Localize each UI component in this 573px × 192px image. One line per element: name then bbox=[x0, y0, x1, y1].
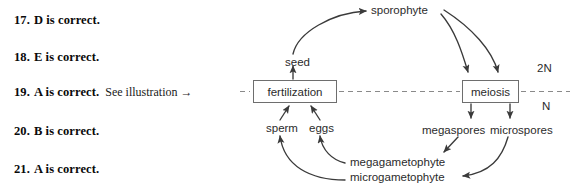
answer-key-page: 17.D is correct. 18.E is correct. 19.A i… bbox=[0, 0, 573, 192]
label-sperm: sperm bbox=[266, 123, 298, 135]
arrow-sperm-to-fertilization bbox=[280, 106, 289, 120]
answer-item-18: 18.E is correct. bbox=[14, 50, 99, 65]
answer-item-20: 20.B is correct. bbox=[14, 124, 99, 139]
node-fertilization-label: fertilization bbox=[268, 86, 323, 98]
node-meiosis-label: meiosis bbox=[471, 86, 510, 98]
life-cycle-diagram: fertilization meiosis sporophyte seed sp… bbox=[240, 0, 573, 192]
label-eggs: eggs bbox=[309, 123, 334, 135]
arrow-microgametophyte-to-sperm bbox=[280, 136, 345, 180]
arrow-megagametophyte-to-eggs bbox=[320, 136, 345, 163]
arrow-seed-to-sporophyte bbox=[293, 11, 366, 54]
answer-number: 17. bbox=[14, 13, 30, 27]
answer-item-21: 21.A is correct. bbox=[14, 162, 99, 177]
label-ploidy-diploid: 2N bbox=[537, 63, 552, 75]
answer-number: 21. bbox=[14, 162, 30, 176]
arrow-microspores-to-microgametophyte bbox=[463, 137, 508, 176]
arrow-megaspores-to-megagametophyte bbox=[444, 137, 458, 152]
label-seed: seed bbox=[285, 57, 310, 69]
answer-text: E is correct. bbox=[34, 50, 99, 64]
node-meiosis: meiosis bbox=[462, 80, 519, 103]
answer-number: 18. bbox=[14, 50, 30, 64]
arrow-sporophyte-to-meiosis-outer bbox=[444, 10, 498, 72]
arrow-sporophyte-to-meiosis bbox=[441, 14, 468, 72]
node-fertilization: fertilization bbox=[253, 80, 337, 103]
answer-text: B is correct. bbox=[34, 124, 99, 138]
answer-text: A is correct. bbox=[34, 85, 99, 99]
answer-number: 19. bbox=[14, 85, 30, 99]
arrow-eggs-to-fertilization bbox=[311, 106, 320, 120]
label-microspores: microspores bbox=[490, 125, 553, 137]
label-megagametophyte: megagametophyte bbox=[350, 157, 445, 169]
label-microgametophyte: microgametophyte bbox=[350, 172, 445, 184]
answer-item-19: 19.A is correct.See illustration → bbox=[14, 85, 193, 100]
label-megaspores: megaspores bbox=[422, 125, 485, 137]
answer-text: A is correct. bbox=[34, 162, 99, 176]
label-ploidy-haploid: N bbox=[542, 101, 550, 113]
answer-text: D is correct. bbox=[34, 13, 100, 27]
answer-list: 17.D is correct. 18.E is correct. 19.A i… bbox=[0, 0, 248, 192]
answer-number: 20. bbox=[14, 124, 30, 138]
answer-note-see-illustration: See illustration → bbox=[105, 85, 192, 99]
label-sporophyte: sporophyte bbox=[371, 5, 428, 17]
answer-item-17: 17.D is correct. bbox=[14, 13, 100, 28]
